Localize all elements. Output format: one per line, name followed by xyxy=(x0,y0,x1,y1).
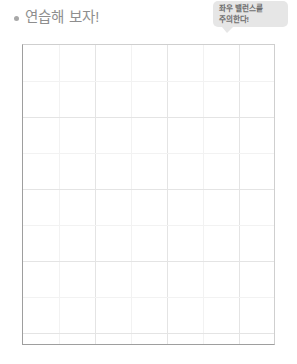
callout-line-1: 좌우 밸런스를 xyxy=(219,4,283,15)
bullet-dot-icon xyxy=(14,16,19,21)
callout-speech-bubble: 좌우 밸런스를 주의한다! xyxy=(213,1,288,27)
page-title-label: 연습해 보자! xyxy=(25,9,99,26)
practice-grid[interactable] xyxy=(22,44,275,345)
speech-bubble-tail-icon xyxy=(222,27,233,33)
grid-lines xyxy=(23,45,274,344)
header-row: 연습해 보자! 좌우 밸런스를 주의한다! xyxy=(0,0,297,40)
page-title: 연습해 보자! xyxy=(14,9,99,26)
callout-line-2: 주의한다! xyxy=(219,15,283,26)
